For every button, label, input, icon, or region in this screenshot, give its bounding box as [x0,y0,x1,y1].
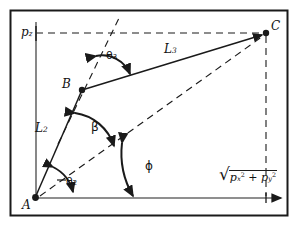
joint-dot-C [263,30,269,36]
angle-label-theta3: θ3 [106,50,117,61]
angle-arc-phi [121,143,133,196]
radicand: px2 + py2 [229,170,277,183]
label-pz: pz [21,26,33,38]
label-L2: L2 [35,122,48,134]
joint-dot-A [32,194,39,201]
point-label-C: C [271,20,280,32]
angle-label-phi: ϕ [145,160,153,172]
point-label-A: A [22,199,31,211]
angle-label-beta: β [91,121,99,133]
diagram-svg [0,0,298,226]
angle-label-theta2: θ2 [66,176,77,187]
point-label-B: B [62,78,71,90]
expression-magnitude: √ px2 + py2 [219,170,277,183]
outer-frame [11,11,288,216]
radical-sign: √ [219,169,230,180]
label-L3: L3 [164,43,177,55]
figure-canvas: pz A B C L2 L3 θ3 β ϕ θ2 √ px2 + py2 [0,0,298,226]
joint-dot-B [79,87,85,93]
